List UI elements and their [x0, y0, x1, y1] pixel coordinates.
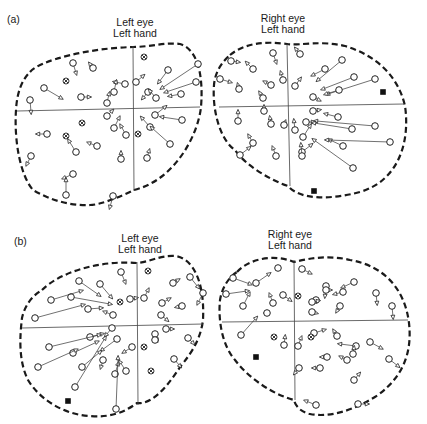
error-vector — [300, 124, 312, 140]
target-circle-icon — [141, 295, 148, 302]
error-vector — [373, 290, 380, 306]
error-vector — [386, 356, 400, 368]
vector-line — [328, 79, 375, 94]
arrowhead-icon — [324, 138, 328, 142]
arrowhead-icon — [272, 146, 276, 151]
arrowhead-icon — [339, 356, 344, 360]
error-vector — [263, 310, 270, 317]
error-vector — [41, 85, 64, 100]
arrowhead-icon — [317, 108, 322, 112]
error-vector — [111, 116, 120, 132]
error-vector — [104, 109, 114, 119]
arrowhead-icon — [103, 311, 108, 315]
arrowhead-icon — [379, 345, 384, 349]
arrowhead-icon — [287, 297, 292, 301]
error-vector — [120, 124, 130, 139]
horizontal-meridian — [222, 320, 408, 322]
error-vector — [68, 139, 80, 155]
error-vector — [312, 138, 356, 171]
error-vector — [245, 61, 256, 72]
target-circle-icon — [163, 326, 170, 333]
target-circle-icon — [389, 303, 396, 310]
error-vector — [311, 365, 323, 372]
filled-square-icon — [65, 398, 71, 404]
vector-line — [49, 335, 99, 347]
arrowhead-icon — [116, 116, 120, 121]
error-vector — [167, 91, 184, 98]
target-circle-icon — [179, 117, 186, 124]
error-vector — [70, 60, 78, 76]
error-vector — [341, 279, 358, 288]
error-vector — [280, 292, 292, 302]
arrowhead-icon — [365, 402, 369, 406]
error-vector — [299, 266, 313, 274]
error-vector — [157, 67, 171, 84]
vector-line — [51, 291, 81, 300]
error-vector — [324, 138, 393, 145]
target-circle-icon — [323, 287, 330, 294]
error-vector — [323, 287, 333, 294]
error-vector — [144, 149, 151, 162]
target-circle-icon — [270, 50, 277, 57]
arrowhead-icon — [145, 288, 149, 293]
arrowhead-icon — [299, 336, 303, 341]
target-circle-icon — [324, 354, 331, 361]
target-circle-icon — [310, 94, 317, 101]
target-circle-icon — [270, 300, 277, 307]
target-circle-icon — [123, 132, 130, 139]
error-vector — [237, 146, 251, 158]
arrowhead-icon — [341, 285, 346, 289]
target-circle-icon — [195, 61, 202, 68]
error-vector — [48, 290, 84, 304]
arrowhead-icon — [120, 124, 124, 129]
error-vector — [259, 91, 267, 102]
vertical-meridian — [287, 44, 290, 186]
error-vector — [87, 333, 105, 341]
error-vector — [281, 334, 288, 348]
arrowhead-icon — [87, 95, 91, 99]
arrowhead-icon — [197, 301, 201, 306]
arrowhead-icon — [147, 149, 151, 154]
target-circle-icon — [170, 280, 177, 287]
vector-line — [38, 350, 76, 367]
arrowhead-icon — [321, 87, 326, 91]
target-circle-icon — [90, 65, 97, 72]
arrowhead-icon — [35, 132, 39, 136]
vector-line — [327, 140, 390, 142]
error-vector — [76, 278, 101, 297]
target-circle-icon — [28, 153, 35, 160]
vertical-meridian — [137, 262, 138, 405]
arrowhead-icon — [96, 292, 101, 296]
error-vector — [292, 77, 302, 89]
error-vector — [280, 71, 287, 84]
target-circle-icon — [299, 266, 306, 273]
target-circle-icon — [230, 275, 237, 282]
target-circle-icon — [281, 342, 288, 349]
target-circle-icon — [78, 94, 85, 101]
error-vector — [158, 312, 169, 322]
target-circle-icon — [118, 156, 125, 163]
target-circle-icon — [152, 337, 159, 344]
fixation-marker-icon — [117, 299, 123, 305]
target-circle-icon — [123, 368, 130, 375]
vertical-meridian — [133, 46, 134, 191]
arrowhead-icon — [160, 85, 165, 89]
arrowhead-icon — [170, 327, 174, 331]
error-vector — [79, 350, 102, 370]
target-circle-icon — [217, 76, 224, 83]
target-circle-icon — [300, 134, 307, 141]
target-circle-icon — [264, 310, 271, 317]
target-circle-icon — [303, 119, 310, 126]
filled-square-icon — [380, 89, 386, 95]
error-vector — [275, 265, 282, 272]
error-vector — [235, 109, 242, 124]
target-circle-icon — [228, 58, 235, 65]
target-circle-icon — [261, 108, 268, 115]
error-vector — [163, 326, 175, 333]
error-vector — [118, 150, 125, 162]
arrowhead-icon — [236, 60, 241, 64]
arrowhead-icon — [228, 80, 233, 84]
error-vector — [367, 339, 384, 350]
target-circle-icon — [236, 86, 243, 93]
target-circle-icon — [336, 87, 343, 94]
